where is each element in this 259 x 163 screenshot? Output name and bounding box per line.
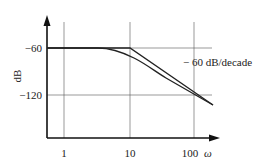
axes — [44, 15, 221, 142]
y-axis-label: dB — [11, 70, 23, 83]
x-tick-label-10: 10 — [125, 147, 137, 159]
x-axis-arrow-icon — [209, 135, 220, 142]
x-tick-label-1: 1 — [61, 147, 67, 159]
y-tick-label-minus120: −120 — [19, 89, 42, 101]
y-tick-label-minus60: −60 — [25, 42, 43, 54]
x-tick-label-100: 100 — [182, 147, 199, 159]
slope-annotation: − 60 dB/decade — [183, 56, 252, 68]
grid — [47, 22, 212, 138]
x-axis-label: ω — [204, 147, 212, 159]
y-axis-arrow-icon — [44, 15, 51, 26]
bode-magnitude-chart: −60 −120 1 10 100 ω dB − 60 dB/decade — [0, 0, 259, 163]
